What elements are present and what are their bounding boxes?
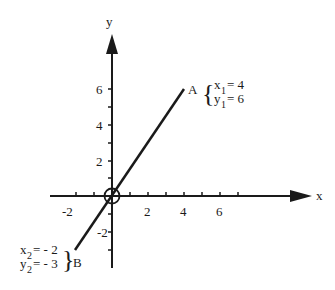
y-tick-label: 6 (96, 82, 103, 97)
x-tick-label: 2 (144, 204, 151, 219)
svg-text:= 4: = 4 (227, 77, 245, 92)
svg-text:= - 3: = - 3 (33, 256, 58, 271)
point-b-label: B (73, 255, 82, 270)
svg-text:2: 2 (27, 264, 32, 275)
point-a-label: A (188, 82, 198, 97)
line-segment-ab (75, 89, 184, 250)
y-tick-label: -2 (97, 225, 108, 240)
svg-text:1: 1 (221, 85, 226, 96)
svg-text:x: x (214, 77, 221, 92)
svg-text:= 6: = 6 (227, 91, 245, 106)
y-tick-label: 4 (96, 118, 103, 133)
svg-text:y: y (214, 91, 221, 106)
y-tick-label: 2 (96, 154, 103, 169)
brace-left-icon: { (202, 79, 214, 108)
point-a-coordinates: x 1 = 4 y 1 = 6 (214, 77, 245, 110)
y-axis-label: y (106, 14, 113, 29)
x-axis-label: x (316, 188, 323, 203)
y-axis-arrow-icon (106, 34, 118, 54)
x-axis-arrow-icon (290, 190, 312, 202)
svg-text:y: y (20, 256, 27, 271)
svg-text:1: 1 (221, 99, 226, 110)
svg-text:x: x (20, 242, 27, 257)
x-tick-label: -2 (62, 204, 73, 219)
point-b-coordinates: x 2 = - 2 y 2 = - 3 (20, 242, 58, 275)
svg-text:2: 2 (27, 250, 32, 261)
coordinate-plane: x y -2 2 4 6 6 4 2 -2 A { x 1 (0, 0, 335, 290)
x-tick-label: 4 (180, 204, 187, 219)
svg-text:= - 2: = - 2 (33, 242, 58, 257)
x-tick-label: 6 (216, 204, 223, 219)
